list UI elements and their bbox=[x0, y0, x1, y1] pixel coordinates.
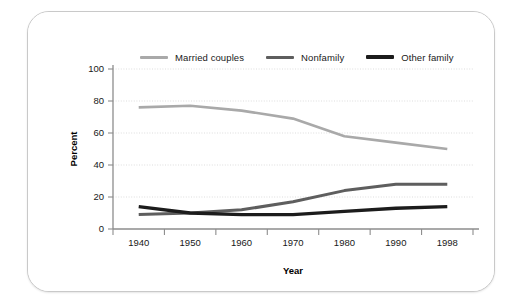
x-tick-label-1950: 1950 bbox=[180, 237, 201, 248]
screenshot-root: Married couples Nonfamily Other family 0… bbox=[0, 0, 522, 307]
y-tick-label-0: 0 bbox=[99, 223, 104, 234]
series-line-nonfamily bbox=[139, 184, 448, 214]
y-tick-label-40: 40 bbox=[93, 159, 104, 170]
y-axis-title: Percent bbox=[68, 131, 79, 167]
x-tick-label-1990: 1990 bbox=[385, 237, 406, 248]
y-tick-label-60: 60 bbox=[93, 127, 104, 138]
x-tick-label-1960: 1960 bbox=[231, 237, 252, 248]
line-chart-svg: 020406080100 194019501960197019801990199… bbox=[28, 12, 496, 293]
y-tick-label-100: 100 bbox=[88, 63, 104, 74]
x-tick-label-1970: 1970 bbox=[282, 237, 303, 248]
x-axis-title: Year bbox=[283, 265, 303, 276]
y-tick-label-80: 80 bbox=[93, 95, 104, 106]
series-lines-group bbox=[139, 106, 448, 215]
chart-card: Married couples Nonfamily Other family 0… bbox=[27, 11, 495, 292]
plot-area: 020406080100 194019501960197019801990199… bbox=[28, 12, 496, 293]
gridlines-group bbox=[113, 69, 473, 197]
x-tick-label-1998: 1998 bbox=[437, 237, 458, 248]
y-tick-label-20: 20 bbox=[93, 191, 104, 202]
series-line-other-family bbox=[139, 207, 448, 215]
y-tick-labels-group: 020406080100 bbox=[88, 63, 104, 234]
series-line-married-couples bbox=[139, 106, 448, 149]
x-tick-labels-group: 1940195019601970198019901998 bbox=[128, 237, 458, 248]
x-tick-label-1940: 1940 bbox=[128, 237, 149, 248]
x-tick-label-1980: 1980 bbox=[334, 237, 355, 248]
